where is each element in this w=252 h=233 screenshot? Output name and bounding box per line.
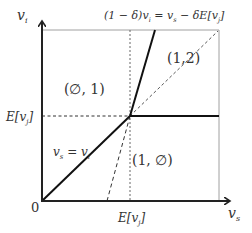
steep-dashed-line — [107, 116, 130, 201]
origin-label: 0 — [31, 200, 39, 215]
y-axis-label: vi — [17, 7, 28, 25]
region-label-upper-left: (∅, 1) — [64, 81, 105, 97]
top-equation: (1 − δ)vi = vs − δE[vj] — [104, 9, 225, 24]
diagonal-equation: vs = vi — [53, 145, 90, 161]
steep-solid-line — [130, 30, 155, 116]
x-axis-label: vs — [228, 205, 240, 223]
x-tick-label: E[vj] — [117, 211, 145, 227]
region-label-lower-right: (1, ∅) — [132, 152, 173, 168]
equilibrium-diagram: vi vs 0 E[vj] E[vj] (1 − δ)vi = vs − δE[… — [0, 0, 252, 233]
region-label-upper-right: (1,2) — [167, 50, 200, 66]
y-tick-label: E[vj] — [5, 110, 33, 126]
